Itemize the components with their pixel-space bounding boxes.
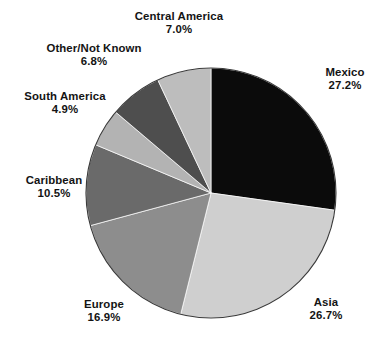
- pie-label-mexico-value: 27.2%: [312, 79, 378, 92]
- pie-label-south-america-name: South America: [2, 90, 128, 103]
- pie-label-mexico: Mexico 27.2%: [312, 66, 378, 93]
- pie-label-south-america: South America 4.9%: [2, 90, 128, 117]
- pie-label-central-america-name: Central America: [116, 10, 242, 23]
- pie-label-caribbean-name: Caribbean: [0, 174, 108, 187]
- pie-label-other-not-known-value: 6.8%: [28, 55, 160, 68]
- pie-label-central-america: Central America 7.0%: [116, 10, 242, 37]
- pie-label-mexico-name: Mexico: [312, 66, 378, 79]
- pie-label-south-america-value: 4.9%: [2, 103, 128, 116]
- pie-label-other-not-known: Other/Not Known 6.8%: [28, 42, 160, 69]
- pie-label-asia-value: 26.7%: [288, 309, 364, 322]
- pie-label-caribbean-value: 10.5%: [0, 187, 108, 200]
- pie-label-central-america-value: 7.0%: [116, 23, 242, 36]
- pie-label-europe: Europe 16.9%: [54, 298, 154, 325]
- pie-label-europe-name: Europe: [54, 298, 154, 311]
- pie-label-europe-value: 16.9%: [54, 311, 154, 324]
- pie-label-asia-name: Asia: [288, 296, 364, 309]
- pie-label-caribbean: Caribbean 10.5%: [0, 174, 108, 201]
- pie-label-asia: Asia 26.7%: [288, 296, 364, 323]
- pie-chart-figure: Mexico 27.2% Asia 26.7% Europe 16.9% Car…: [0, 0, 378, 351]
- pie-label-other-not-known-name: Other/Not Known: [28, 42, 160, 55]
